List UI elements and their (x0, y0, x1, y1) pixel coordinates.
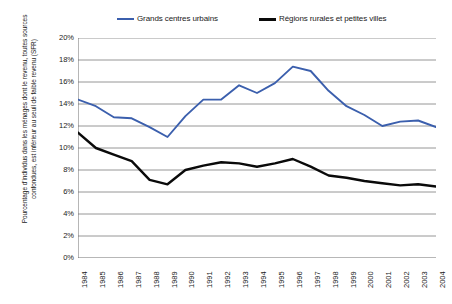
legend-label: Grands centres urbains (137, 14, 218, 24)
y-axis-title: Pourcentage d'individus dans les ménages… (21, 0, 47, 239)
plot-svg (78, 38, 436, 258)
chart-figure: Grands centres urbains Régions rurales e… (0, 0, 452, 304)
x-axis-tick-label: 1984 (81, 271, 89, 288)
x-axis-tick-label: 1997 (314, 271, 322, 288)
legend-swatch-line-icon (259, 18, 276, 21)
x-axis-tick-label: 1995 (278, 271, 286, 288)
series-line-regions-rurales (78, 133, 436, 187)
x-axis-tick-label: 1992 (224, 271, 232, 288)
x-axis-tick-label: 1991 (206, 271, 214, 288)
x-axis-tick-label: 1987 (135, 271, 143, 288)
legend-swatch-line-icon (117, 18, 134, 20)
x-axis-tick-label: 1988 (153, 271, 161, 288)
y-axis-tick-label: 12% (48, 122, 74, 130)
x-axis-tick-label: 1985 (99, 271, 107, 288)
x-axis-tick-label: 1994 (260, 271, 268, 288)
y-axis-tick-label: 2% (48, 232, 74, 240)
x-axis-tick-label: 2002 (403, 271, 411, 288)
legend-item-regions-rurales-et-petites-villes: Régions rurales et petites villes (259, 14, 386, 24)
y-axis-tick-label: 0% (48, 254, 74, 262)
x-axis-tick-label: 1998 (332, 271, 340, 288)
x-axis-tick-label: 2003 (421, 271, 429, 288)
x-axis-tick-label: 2000 (367, 271, 375, 288)
legend-item-grands-centres-urbains: Grands centres urbains (117, 14, 218, 24)
x-axis-tick-label: 1993 (242, 271, 250, 288)
y-axis-tick-label: 14% (48, 100, 74, 108)
y-axis-title-line-2: confondues, est inférieur au seuil de fa… (30, 0, 39, 239)
x-axis-tick-label: 1989 (171, 271, 179, 288)
y-axis-tick-label: 16% (48, 78, 74, 86)
x-axis-tick-label: 1990 (188, 271, 196, 288)
x-axis-tick-label: 2004 (439, 271, 447, 288)
y-axis-tick-label: 4% (48, 210, 74, 218)
x-axis-tick-labels: 1984198519861987198819891990199119921993… (78, 262, 436, 302)
legend-label: Régions rurales et petites villes (279, 14, 386, 24)
y-axis-tick-label: 10% (48, 144, 74, 152)
y-axis-tick-labels: 0%2%4%6%8%10%12%14%16%18%20% (48, 38, 74, 258)
y-axis-tick-label: 18% (48, 56, 74, 64)
plot-area (78, 38, 436, 258)
x-axis-tick-label: 2001 (385, 271, 393, 288)
y-axis-tick-label: 8% (48, 166, 74, 174)
x-axis-tick-label: 1999 (350, 271, 358, 288)
y-axis-title-line-1: Pourcentage d'individus dans les ménages… (21, 0, 30, 239)
x-axis-tick-label: 1996 (296, 271, 304, 288)
y-axis-tick-label: 6% (48, 188, 74, 196)
x-axis-tick-label: 1986 (117, 271, 125, 288)
y-axis-tick-label: 20% (48, 34, 74, 42)
chart-legend: Grands centres urbains Régions rurales e… (0, 14, 452, 30)
gridlines (78, 38, 436, 236)
